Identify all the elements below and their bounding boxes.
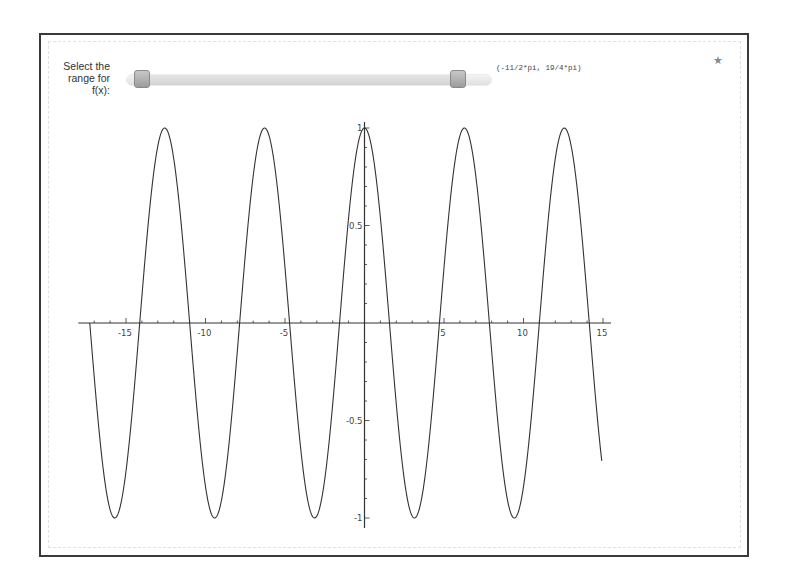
- x-tick-label: 15: [597, 328, 608, 338]
- plot-axes: -15-10-55101510.5-0.5-1: [78, 122, 611, 528]
- y-tick-label: -1: [354, 513, 362, 523]
- y-tick-label: -0.5: [346, 416, 363, 426]
- x-tick-label: 5: [440, 328, 445, 338]
- function-plot: -15-10-55101510.5-0.5-1: [0, 0, 786, 585]
- x-tick-label: 10: [517, 328, 528, 338]
- x-tick-label: -10: [198, 328, 212, 338]
- x-tick-label: -5: [280, 328, 288, 338]
- x-tick-label: -15: [118, 328, 132, 338]
- y-tick-label: 0.5: [349, 221, 363, 231]
